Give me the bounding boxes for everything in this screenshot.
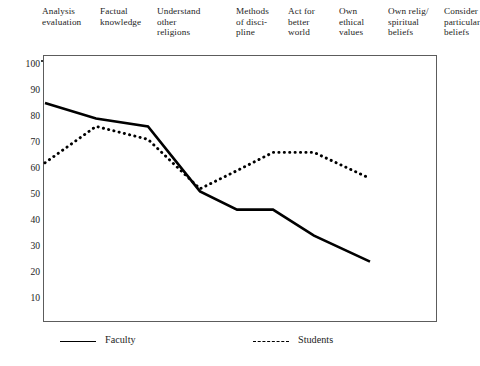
y-tick-10: 10 — [2, 293, 40, 303]
category-label-act-for-better-world: Act forbetterworld — [288, 6, 315, 38]
legend-label-students: Students — [298, 334, 333, 346]
category-label-methods-of-discipline: Methodsof disci-pline — [236, 6, 269, 38]
category-header-row: Analysisevaluation Factualknowledge Unde… — [42, 6, 438, 52]
chart-legend: Faculty Students — [60, 332, 390, 352]
legend-swatch-dashed-line-icon — [253, 334, 289, 346]
series-line-students — [45, 126, 370, 188]
y-tick-40: 40 — [2, 215, 40, 225]
category-label-consider-particular-beliefs: Considerparticularbeliefs — [444, 6, 480, 38]
y-tick-30: 30 — [2, 241, 40, 251]
y-tick-100: 100 — [2, 59, 40, 69]
y-tick-20: 20 — [2, 267, 40, 277]
category-label-understand-other-religions: Understandotherreligions — [157, 6, 200, 38]
y-axis-tick-labels: 100908070605040302010 — [0, 0, 40, 366]
category-label-own-religious-spiritual-beliefs: Own relig/spiritualbeliefs — [388, 6, 429, 38]
y-tick-80: 80 — [2, 111, 40, 121]
category-label-analysis-evaluation: Analysisevaluation — [42, 6, 81, 27]
legend-entry-students: Students — [253, 332, 333, 348]
legend-swatch-solid-line-icon — [60, 334, 96, 346]
plot-lines — [43, 55, 437, 322]
category-label-own-ethical-values: Ownethicalvalues — [339, 6, 364, 38]
category-label-factual-knowledge: Factualknowledge — [100, 6, 141, 27]
legend-entry-faculty: Faculty — [60, 332, 136, 348]
y-tick-50: 50 — [2, 189, 40, 199]
y-tick-60: 60 — [2, 163, 40, 173]
y-tick-90: 90 — [2, 85, 40, 95]
legend-label-faculty: Faculty — [105, 334, 136, 346]
y-tick-70: 70 — [2, 137, 40, 147]
